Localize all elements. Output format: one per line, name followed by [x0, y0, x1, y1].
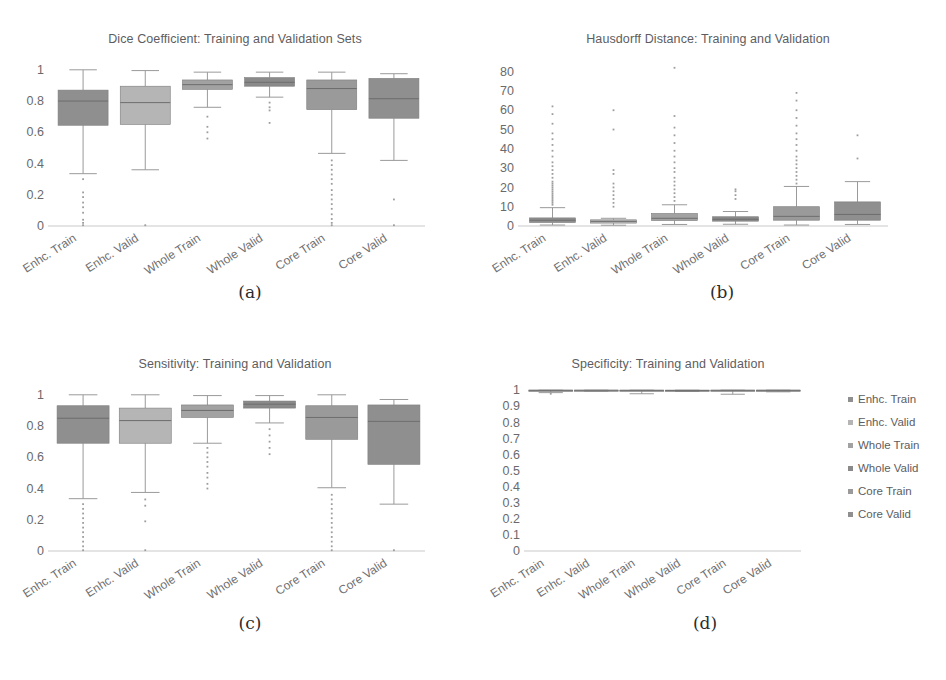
x-axis-tick-label: Core Valid [720, 556, 774, 598]
boxplot-box [713, 188, 759, 224]
boxplot-box [756, 390, 800, 392]
legend-swatch-icon [848, 443, 853, 448]
y-axis-tick-label: 0.4 [27, 482, 44, 496]
boxplot-box [620, 390, 664, 394]
y-axis-tick-label: 70 [500, 84, 514, 98]
y-axis-tick-label: 0.2 [27, 513, 44, 527]
boxplot-box [307, 72, 357, 226]
x-axis-tick-label: Core Train [738, 231, 793, 273]
boxplot-sensitivity: 00.20.40.60.81Enhc. TrainEnhc. ValidWhol… [0, 377, 470, 627]
x-axis-tick-label: Core Train [674, 556, 729, 598]
y-axis-tick-label: 0.6 [27, 450, 44, 464]
legend-item[interactable]: Core Valid [848, 508, 911, 520]
panel-sensitivity: Sensitivity: Training and Validation 00.… [0, 345, 470, 645]
boxplot-box [58, 70, 108, 226]
y-axis-tick-label: 0 [513, 544, 520, 558]
y-axis-tick-label: 80 [500, 65, 514, 79]
legend-swatch-icon [848, 466, 853, 471]
boxplot-box [711, 390, 755, 394]
x-axis-tick-label: Enhc. Train [20, 556, 79, 601]
y-axis-tick-label: 10 [500, 200, 514, 214]
y-axis-tick-label: 0.4 [503, 480, 520, 494]
y-axis-tick-label: 0.8 [27, 419, 44, 433]
boxplot-box [368, 399, 420, 551]
caption-c: (c) [220, 613, 280, 633]
legend-item[interactable]: Enhc. Train [848, 393, 916, 405]
boxplot-box [591, 109, 637, 225]
legend-item-label: Core Valid [858, 508, 911, 520]
x-axis-tick-label: Core Valid [336, 231, 390, 273]
legend-swatch-icon [848, 489, 853, 494]
y-axis-tick-label: 0.3 [503, 496, 520, 510]
legend-item[interactable]: Whole Valid [848, 462, 919, 474]
panel-title-hausdorff: Hausdorff Distance: Training and Validat… [470, 32, 946, 46]
legend-item-label: Whole Valid [858, 462, 919, 474]
panel-dice-coefficient: Dice Coefficient: Training and Validatio… [0, 20, 470, 310]
y-axis-tick-label: 1 [513, 383, 520, 397]
boxplot-box [244, 396, 296, 455]
x-axis-tick-label: Core Train [273, 556, 328, 598]
y-axis-tick-label: 0.6 [27, 125, 44, 139]
x-axis-tick-label: Whole Train [142, 231, 203, 278]
boxplot-dice: 00.20.40.60.81Enhc. TrainEnhc. ValidWhol… [0, 52, 470, 302]
boxplot-specificity: 00.10.20.30.40.50.60.70.80.91Enhc. Train… [470, 377, 946, 627]
legend-item-label: Enhc. Train [858, 393, 916, 405]
caption-d: (d) [675, 613, 735, 633]
boxplot-box [182, 72, 232, 139]
caption-a: (a) [220, 282, 280, 302]
y-axis-tick-label: 50 [500, 123, 514, 137]
y-axis-tick-label: 0.1 [503, 528, 520, 542]
boxplot-box [835, 134, 881, 224]
y-axis-tick-label: 0 [37, 219, 44, 233]
y-axis-tick-label: 0.6 [503, 448, 520, 462]
panel-title-specificity: Specificity: Training and Validation [430, 357, 906, 371]
boxplot-box [119, 395, 171, 551]
x-axis-tick-label: Enhc. Valid [551, 231, 609, 275]
panel-title-dice: Dice Coefficient: Training and Validatio… [0, 32, 470, 46]
legend-item-label: Core Train [858, 485, 912, 497]
x-axis-tick-label: Core Valid [336, 556, 390, 598]
legend-swatch-icon [848, 512, 853, 517]
y-axis-tick-label: 0 [507, 219, 514, 233]
y-axis-tick-label: 0.8 [27, 94, 44, 108]
boxplot-box [57, 395, 109, 551]
legend-item[interactable]: Enhc. Valid [848, 416, 915, 428]
y-axis-tick-label: 0.7 [503, 432, 520, 446]
panel-title-sensitivity: Sensitivity: Training and Validation [0, 357, 470, 371]
boxplot-box [306, 395, 358, 551]
y-axis-tick-label: 1 [37, 63, 44, 77]
x-axis-tick-label: Whole Train [142, 556, 203, 603]
boxplot-box [245, 72, 295, 124]
y-axis-tick-label: 0.2 [27, 188, 44, 202]
x-axis-tick-label: Enhc. Train [20, 231, 79, 276]
legend-item-label: Enhc. Valid [858, 416, 915, 428]
x-axis-tick-label: Whole Train [609, 231, 670, 278]
y-axis-tick-label: 0 [37, 544, 44, 558]
boxplot-box [530, 105, 576, 225]
x-axis-tick-label: Core Train [273, 231, 328, 273]
x-axis-tick-label: Whole Valid [671, 231, 732, 277]
y-axis-tick-label: 1 [37, 388, 44, 402]
y-axis-tick-label: 40 [500, 142, 514, 156]
boxplot-box [574, 390, 618, 391]
boxplot-box [774, 92, 820, 225]
x-axis-tick-label: Enhc. Valid [83, 556, 141, 600]
y-axis-tick-label: 20 [500, 181, 514, 195]
legend-item[interactable]: Whole Train [848, 439, 919, 451]
figure-boxplot-grid: Dice Coefficient: Training and Validatio… [0, 0, 946, 680]
panel-hausdorff-distance: Hausdorff Distance: Training and Validat… [470, 20, 946, 310]
boxplot-box [181, 396, 233, 490]
boxplot-box [369, 74, 419, 226]
y-axis-tick-label: 0.9 [503, 399, 520, 413]
y-axis-tick-label: 60 [500, 103, 514, 117]
legend-swatch-icon [848, 397, 853, 402]
x-axis-tick-label: Enhc. Valid [83, 231, 141, 275]
panel-specificity: Specificity: Training and Validation 00.… [470, 345, 946, 645]
x-axis-tick-label: Enhc. Train [490, 231, 549, 276]
y-axis-tick-label: 0.8 [503, 416, 520, 430]
boxplot-box [652, 67, 698, 225]
boxplot-box [529, 390, 573, 394]
boxplot-box [665, 390, 709, 391]
legend-item[interactable]: Core Train [848, 485, 912, 497]
x-axis-tick-label: Whole Valid [205, 231, 266, 277]
